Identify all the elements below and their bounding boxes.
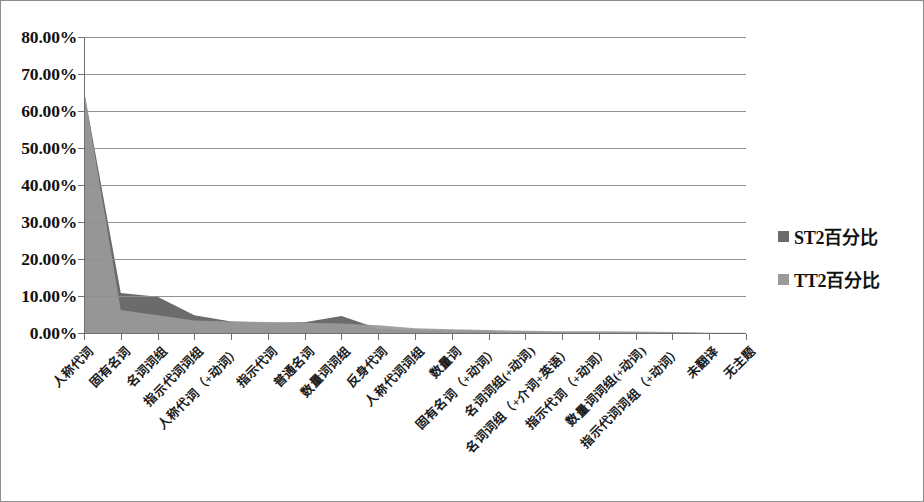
y-axis-tick-mark xyxy=(78,259,84,260)
y-axis-labels: 80.00%70.00%60.00%50.00%40.00%30.00%20.0… xyxy=(1,37,77,333)
y-axis-tick-mark xyxy=(78,296,84,297)
gridline xyxy=(84,37,746,38)
gridline xyxy=(84,148,746,149)
gridline xyxy=(84,185,746,186)
gridline xyxy=(84,74,746,75)
chart-legend: ST2百分比TT2百分比 xyxy=(778,223,918,309)
y-axis-tick-label: 60.00% xyxy=(21,101,77,122)
x-axis-labels: 人称代词固有名词名词词组指示代词词组人称代词（+动词）指示代词普通名词数量词词组… xyxy=(1,333,924,502)
y-axis-tick-label: 10.00% xyxy=(21,286,77,307)
y-axis-tick-label: 80.00% xyxy=(21,27,77,48)
y-axis-tick-label: 70.00% xyxy=(21,64,77,85)
y-axis-line xyxy=(84,37,85,334)
y-axis-tick-mark xyxy=(78,148,84,149)
y-axis-tick-mark xyxy=(78,74,84,75)
plot-area xyxy=(84,37,746,333)
y-axis-tick-label: 30.00% xyxy=(21,212,77,233)
legend-item[interactable]: ST2百分比 xyxy=(778,223,918,249)
y-axis-tick-label: 40.00% xyxy=(21,175,77,196)
gridline xyxy=(84,222,746,223)
chart-container: 80.00%70.00%60.00%50.00%40.00%30.00%20.0… xyxy=(0,0,924,502)
legend-item[interactable]: TT2百分比 xyxy=(778,266,918,292)
legend-label: ST2百分比 xyxy=(794,223,878,249)
y-axis-tick-mark xyxy=(78,185,84,186)
gridline xyxy=(84,111,746,112)
legend-swatch-icon xyxy=(778,231,789,242)
y-axis-tick-label: 20.00% xyxy=(21,249,77,270)
y-axis-tick-mark xyxy=(78,111,84,112)
legend-swatch-icon xyxy=(778,274,789,285)
gridline xyxy=(84,259,746,260)
y-axis-tick-mark xyxy=(78,222,84,223)
legend-label: TT2百分比 xyxy=(794,266,880,292)
gridline xyxy=(84,296,746,297)
y-axis-tick-label: 50.00% xyxy=(21,138,77,159)
y-axis-tick-mark xyxy=(78,37,84,38)
